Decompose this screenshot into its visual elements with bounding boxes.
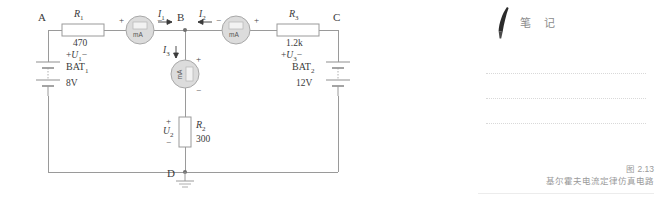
resistor-r2-plus: + (166, 117, 171, 126)
meter-m3-display (186, 67, 193, 81)
meter-m1-display (133, 22, 147, 29)
notes-panel: 笔 记 图 2.13 基尔霍夫电流定律仿真电路 (470, 0, 662, 206)
resistor-r1-value: 470 (73, 39, 87, 49)
notes-line-2[interactable] (486, 98, 646, 99)
current-label-i2: I2 (199, 10, 206, 22)
resistor-r3-value: 1.2k (286, 39, 303, 49)
resistor-r3-label: R3 (289, 9, 299, 22)
battery-bat1-value: 8V (66, 79, 78, 89)
resistor-r2-value: 300 (196, 135, 210, 145)
meter-m1-plus: + (119, 16, 124, 25)
current-label-i1: I1 (158, 10, 165, 22)
node-dot-b (183, 28, 187, 32)
battery-bat2-symbol (326, 62, 350, 96)
battery-bat2-label: BAT2 (292, 62, 314, 75)
resistor-r1-label: R1 (74, 9, 84, 22)
node-label-c: C (333, 12, 340, 23)
battery-bat1-label: BAT1 (66, 62, 88, 75)
notes-title: 笔 记 (520, 14, 560, 30)
node-label-b: B (177, 12, 184, 23)
meter-m3-text: mA (176, 69, 183, 79)
pen-icon (494, 6, 516, 40)
meter-m2-minus: − (216, 16, 221, 25)
circuit-diagram: A B C D R1 470 +U1− R3 1.2k +U3− R2 300 … (0, 0, 470, 206)
resistor-r2-label: R2 (196, 120, 206, 133)
resistor-r1-body (62, 24, 104, 36)
caption-rule (478, 193, 654, 194)
resistor-r3-body (277, 24, 319, 36)
current-label-i3: I3 (163, 46, 170, 58)
meter-m3-minus: − (196, 86, 201, 95)
resistor-r2-minus: − (166, 138, 171, 147)
page-root: A B C D R1 470 +U1− R3 1.2k +U3− R2 300 … (0, 0, 662, 206)
battery-bat2-value: 12V (296, 79, 312, 89)
node-label-d: D (167, 168, 175, 179)
meter-m2-display (229, 22, 243, 29)
meter-m3-plus: + (196, 55, 201, 64)
meter-m2-plus: + (254, 16, 259, 25)
node-label-a: A (38, 12, 46, 23)
ground-symbol (176, 172, 194, 187)
figure-caption-text: 基尔霍夫电流定律仿真电路 (546, 175, 654, 188)
meter-m1-body (126, 16, 154, 44)
figure-caption: 图 2.13 基尔霍夫电流定律仿真电路 (546, 163, 654, 189)
meter-m2-body (222, 16, 250, 44)
notes-line-3[interactable] (486, 123, 646, 124)
meter-m2-text: mA (229, 31, 239, 38)
figure-caption-number: 图 2.13 (546, 163, 654, 176)
resistor-r2-body (179, 117, 191, 147)
notes-line-1[interactable] (486, 73, 646, 74)
meter-m1-text: mA (133, 31, 143, 38)
battery-bat1-symbol (36, 62, 60, 96)
